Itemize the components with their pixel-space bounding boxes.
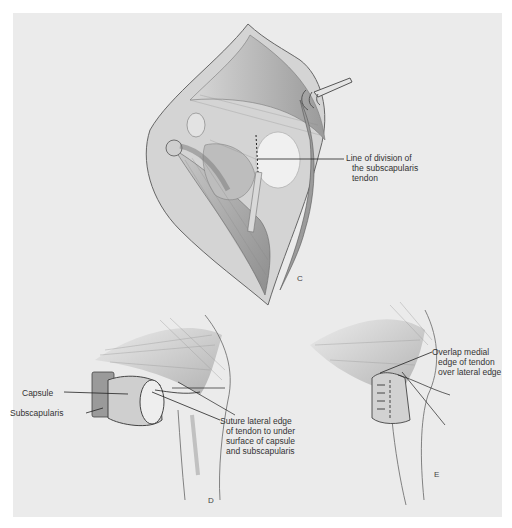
figure-letter-d: D (208, 496, 214, 505)
label-line-1: Overlap medial (432, 347, 501, 357)
label-line-1: Line of division of (346, 153, 418, 163)
label-line-2: of tendon to under (220, 426, 295, 436)
label-line-4: and subscapularis (220, 446, 295, 456)
label-line-3: over lateral edge (432, 367, 501, 377)
figure-d-drawing (64, 315, 235, 500)
figure-letter-c: C (297, 274, 303, 283)
figure-e-drawing (310, 302, 450, 505)
label-capsule: Capsule (22, 388, 53, 398)
label-subscapularis: Subscapularis (10, 408, 63, 418)
label-overlap: Overlap medial edge of tendon over later… (432, 347, 501, 377)
label-line-2: the subscapularis (346, 163, 418, 173)
figure-letter-e: E (434, 470, 439, 479)
label-line-1: Suture lateral edge (220, 416, 295, 426)
label-suture: Suture lateral edge of tendon to under s… (220, 416, 295, 456)
label-line-2: edge of tendon (432, 357, 501, 367)
label-line-3: tendon (346, 173, 418, 183)
figure-c-drawing (146, 24, 352, 305)
label-line-of-division: Line of division of the subscapularis te… (346, 153, 418, 183)
label-line-3: surface of capsule (220, 436, 295, 446)
